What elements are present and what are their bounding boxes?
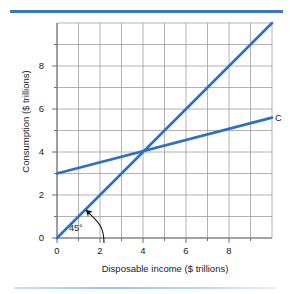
figure-container: Consumption ($ trillions) Disposable inc… — [0, 0, 296, 294]
y-tick-label-4: 4 — [30, 146, 44, 157]
y-axis-ticks — [52, 45, 57, 239]
x-tick-label-2: 2 — [93, 245, 107, 256]
x-tick-label-6: 6 — [179, 245, 193, 256]
y-axis-title: Consumption ($ trillions) — [20, 42, 31, 202]
x-tick-label-8: 8 — [222, 245, 236, 256]
y-tick-label-6: 6 — [30, 103, 44, 114]
y-tick-label-8: 8 — [30, 60, 44, 71]
y-tick-label-2: 2 — [30, 189, 44, 200]
forty-five-degree-label: 45° — [69, 223, 83, 233]
x-axis-title: Disposable income ($ trillions) — [57, 263, 273, 274]
x-tick-label-0: 0 — [50, 245, 64, 256]
y-tick-label-0: 0 — [30, 232, 44, 243]
consumption-curve-label: C — [275, 112, 282, 123]
x-axis-ticks — [57, 238, 251, 243]
x-tick-label-4: 4 — [136, 245, 150, 256]
